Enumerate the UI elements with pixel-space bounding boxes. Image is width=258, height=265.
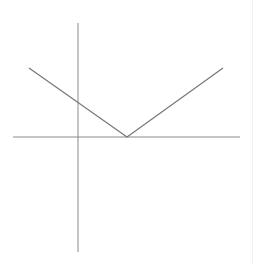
- v-shaped-function-line: [29, 68, 223, 137]
- function-graph: [0, 0, 258, 265]
- chart-container: [0, 0, 258, 265]
- image-edge-divider: [252, 0, 253, 265]
